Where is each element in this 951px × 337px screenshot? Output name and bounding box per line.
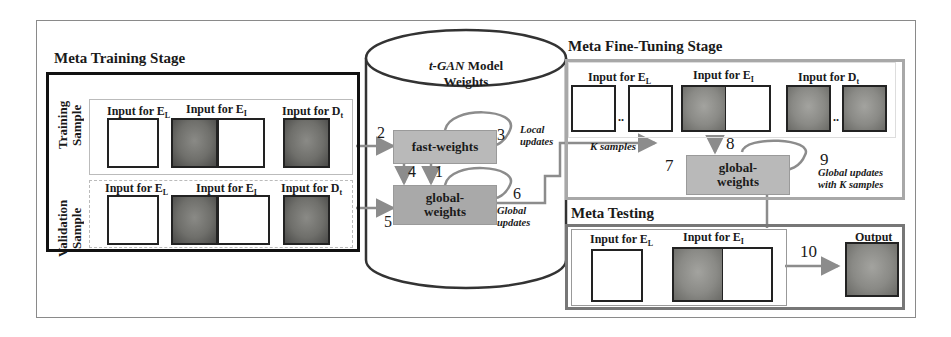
k-samples-label: K samples: [590, 140, 636, 152]
step-1: 1: [435, 163, 443, 181]
testing-input-EI-label: Input for EI: [683, 230, 744, 246]
step-3: 3: [497, 126, 505, 144]
face-photo-image: [171, 118, 218, 168]
step-4: 4: [408, 163, 416, 181]
face-photo-image: [672, 247, 724, 302]
ellipsis: ..: [833, 110, 839, 125]
step-2: 2: [377, 124, 385, 142]
meta-testing-title: Meta Testing: [571, 205, 654, 222]
landmark-sketch-image: [726, 85, 771, 132]
landmark-sketch-image: [217, 118, 265, 168]
global-weights-box: global-weights: [393, 185, 497, 225]
training-input-EI-label: Input for EI: [186, 102, 247, 118]
step-5: 5: [384, 213, 392, 231]
landmark-sketch-image: [628, 85, 673, 132]
landmark-sketch-image: [591, 249, 643, 302]
meta-finetuning-title: Meta Fine-Tuning Stage: [568, 38, 722, 55]
landmark-sketch-image: [107, 118, 159, 168]
landmark-sketch-image: [217, 195, 270, 245]
landmark-sketch-image: [107, 195, 159, 245]
step-7: 7: [665, 156, 674, 176]
landmark-sketch-image: [723, 247, 773, 302]
face-photo-image: [842, 85, 887, 132]
face-photo-image: [283, 118, 330, 168]
finetune-global-weights-box: global-weights: [686, 155, 790, 195]
global-updates-k-samples-label: Global updateswith K samples: [818, 167, 883, 191]
face-photo-image: [681, 85, 727, 132]
step-6: 6: [513, 185, 521, 203]
ellipsis: ..: [618, 110, 624, 125]
face-photo-image: [283, 195, 330, 245]
testing-input-EL-label: Input for EL: [590, 232, 653, 248]
finetune-input-EI-label: Input for EI: [693, 68, 754, 84]
fast-weights-box: fast-weights: [393, 130, 497, 164]
validation-sample-label: ValidationSample: [56, 188, 84, 268]
training-sample-label: TrainingSample: [56, 90, 84, 160]
global-updates-label: Globalupdates: [497, 205, 530, 229]
step-8: 8: [726, 134, 735, 154]
face-photo-image: [171, 195, 218, 245]
face-photo-image: [786, 85, 831, 132]
landmark-sketch-image: [571, 85, 616, 132]
step-10: 10: [800, 242, 817, 262]
finetune-input-EL-label: Input for EL: [588, 70, 651, 86]
model-weights-title: t-GAN ModelWeights: [406, 58, 526, 90]
meta-training-title: Meta Training Stage: [54, 50, 185, 67]
output-face-image: [845, 242, 899, 297]
finetune-input-Dt-label: Input for Dt: [798, 70, 859, 86]
local-updates-label: Localupdates: [520, 124, 553, 148]
